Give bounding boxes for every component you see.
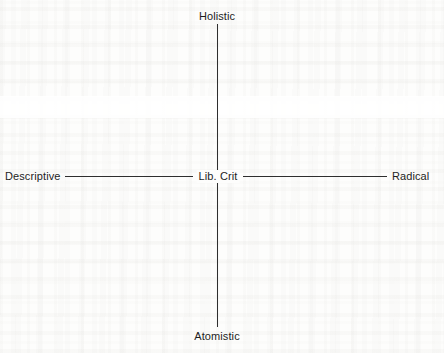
axis-label-radical: Radical	[392, 170, 429, 183]
horizontal-axis-line-left	[65, 176, 193, 177]
axis-label-holistic: Holistic	[199, 10, 235, 23]
quadrant-axis-diagram: Holistic Atomistic Descriptive Radical L…	[0, 0, 444, 353]
axis-label-origin-lib-crit: Lib. Crit	[197, 170, 240, 183]
axis-label-descriptive: Descriptive	[5, 170, 61, 183]
axis-label-atomistic: Atomistic	[194, 330, 240, 343]
scanned-figure-page: Holistic Atomistic Descriptive Radical L…	[0, 0, 444, 353]
horizontal-axis-line-right	[243, 176, 387, 177]
